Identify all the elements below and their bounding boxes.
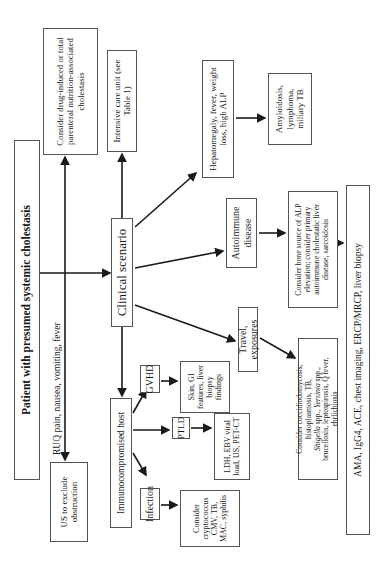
ptld-findings-box: LDH, EBV viral load, US, PET-CT xyxy=(214,413,250,480)
clinical-scenario-box: Clinical scenario xyxy=(111,218,133,327)
ruq-symptoms-label: RUQ pain, nausea, vomiting, fever xyxy=(52,322,62,455)
hepatomegaly-box: Hepatomegaly, fever, weight loss, high A… xyxy=(202,60,234,178)
title-box: Patient with presumed systemic cholestas… xyxy=(14,140,40,480)
bone-source-box: Consider bone source of ALP elevation; c… xyxy=(288,191,338,308)
arrow-to-infection xyxy=(133,453,146,475)
workup-box: AMA, IgG4, ACE, chest imaging, ERCP/MRCP… xyxy=(346,185,370,535)
arrow-to-travel xyxy=(135,305,235,341)
drug-induced-box: Consider drug-induced or total parentera… xyxy=(43,28,98,155)
autoimmune-box: Autoimmune disease xyxy=(226,198,257,268)
infection-box: Infection xyxy=(140,488,160,520)
infectious-causes-box: Consider coccidiodomycosis, histoplasmos… xyxy=(298,338,338,480)
infection-findings-box: Consider cryptococcus CMV, TB, MAC, syph… xyxy=(180,490,240,547)
cocci-line1: Consider coccidiodomycosis, histoplasmos… xyxy=(296,342,313,476)
arrow-to-gvhd xyxy=(133,390,146,413)
arrow-to-cocci xyxy=(260,338,295,358)
amyloidosis-box: Amyloidosis, lymphoma, miliary TB xyxy=(268,73,312,145)
cocci-line3: brucellosis, leptospirosis, Q fever, ehr… xyxy=(322,342,339,476)
gvhd-box: GVHD xyxy=(140,365,160,393)
us-box: US to exclude obstruction xyxy=(50,462,88,542)
travel-box: Travel, exposures xyxy=(238,307,258,372)
immunocompromised-box: Immunocompromised host xyxy=(110,398,132,528)
cholestasis-flowchart: Patient with presumed systemic cholestas… xyxy=(0,0,387,573)
arrow-to-hepatomegaly xyxy=(135,173,196,227)
arrow-to-autoimmune xyxy=(135,251,223,268)
icu-box: Intensive care unit (see Table 1) xyxy=(107,50,137,152)
ptld-box: PTLD xyxy=(172,417,190,439)
gvhd-findings-box: Skin, GI features, liver biopsy findings xyxy=(180,361,230,413)
